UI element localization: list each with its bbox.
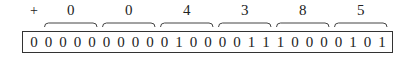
hex-digit: 0 [61, 2, 81, 19]
bit-cell: 0 [318, 34, 330, 51]
bit-cell: 0 [217, 34, 229, 51]
bit-cell: 0 [57, 34, 69, 51]
hex-digit: 8 [293, 2, 313, 19]
bit-cell: 0 [289, 34, 301, 51]
group-brace [219, 23, 272, 27]
bit-cell: 1 [376, 34, 388, 51]
hex-digit: 3 [235, 2, 255, 19]
hex-digit: 0 [119, 2, 139, 19]
bit-cell: 0 [362, 34, 374, 51]
bit-cell: 1 [246, 34, 258, 51]
hex-digit: 5 [351, 2, 371, 19]
bit-cell: 0 [101, 34, 113, 51]
group-brace [277, 23, 330, 27]
bit-cell: 1 [275, 34, 287, 51]
bit-cell: 0 [130, 34, 142, 51]
bit-cell: 0 [115, 34, 127, 51]
bit-cell: 0 [202, 34, 214, 51]
group-brace [103, 23, 156, 27]
bit-cell: 0 [86, 34, 98, 51]
bit-cell: 0 [231, 34, 243, 51]
bit-cell: 0 [159, 34, 171, 51]
hex-digit: 4 [177, 2, 197, 19]
leading-bit: 0 [28, 34, 40, 51]
group-brace [161, 23, 214, 27]
group-brace [45, 23, 98, 27]
bit-cell: 0 [144, 34, 156, 51]
group-brace [335, 23, 388, 27]
bit-cell: 1 [347, 34, 359, 51]
bit-cell: 0 [188, 34, 200, 51]
bit-cell: 1 [260, 34, 272, 51]
bit-cell: 0 [304, 34, 316, 51]
bit-cell: 0 [43, 34, 55, 51]
bit-cell: 0 [333, 34, 345, 51]
bit-cell: 1 [173, 34, 185, 51]
bit-cell: 0 [72, 34, 84, 51]
